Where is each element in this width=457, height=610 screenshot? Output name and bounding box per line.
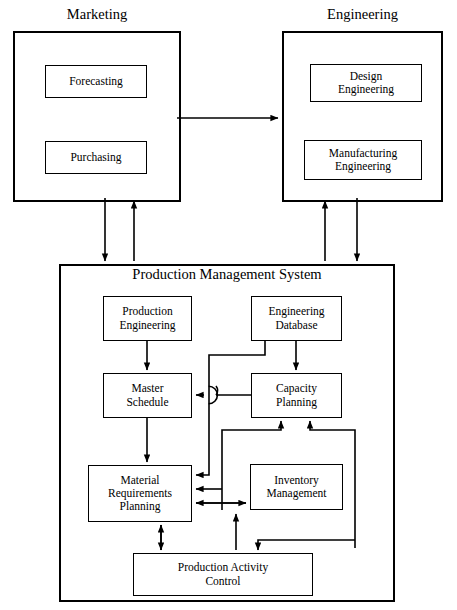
- block-purchasing[interactable]: Purchasing: [45, 141, 147, 174]
- block-label-master-schedule: MasterSchedule: [126, 382, 168, 408]
- block-manufacturing-engineering[interactable]: ManufacturingEngineering: [304, 140, 422, 180]
- block-forecasting[interactable]: Forecasting: [45, 65, 147, 98]
- wire-capacity-to-pac: [258, 540, 355, 550]
- block-master-schedule[interactable]: MasterSchedule: [103, 373, 192, 418]
- block-label-purchasing: Purchasing: [70, 151, 121, 164]
- block-label-manufacturing-engineering: ManufacturingEngineering: [329, 147, 397, 173]
- diagram-canvas: Marketing Engineering Production Managem…: [0, 0, 457, 610]
- block-label-production-engineering: ProductionEngineering: [119, 305, 175, 331]
- block-label-engineering-database: EngineeringDatabase: [268, 305, 324, 331]
- block-engineering-database[interactable]: EngineeringDatabase: [251, 296, 342, 341]
- block-label-forecasting: Forecasting: [69, 75, 123, 88]
- block-label-production-activity-control: Production ActivityControl: [178, 561, 268, 587]
- block-label-material-requirements-planning: MaterialRequirementsPlanning: [108, 474, 172, 514]
- block-production-engineering[interactable]: ProductionEngineering: [103, 296, 192, 341]
- block-design-engineering[interactable]: DesignEngineering: [310, 64, 422, 102]
- block-inventory-management[interactable]: InventoryManagement: [250, 464, 343, 510]
- block-material-requirements-planning[interactable]: MaterialRequirementsPlanning: [88, 465, 192, 522]
- block-label-capacity-planning: CapacityPlanning: [276, 382, 317, 408]
- block-capacity-planning[interactable]: CapacityPlanning: [251, 373, 342, 418]
- block-label-design-engineering: DesignEngineering: [338, 70, 394, 96]
- block-production-activity-control[interactable]: Production ActivityControl: [133, 553, 313, 596]
- block-label-inventory-management: InventoryManagement: [266, 474, 326, 500]
